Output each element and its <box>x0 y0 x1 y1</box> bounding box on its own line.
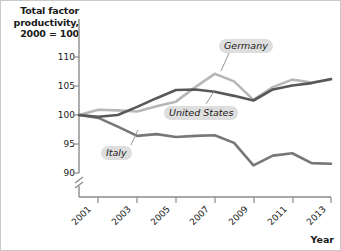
chart-figure: Total factor productivity, 2000 = 100 Ye… <box>0 0 341 251</box>
leader-line-germany <box>221 53 229 71</box>
series-line-germany <box>79 74 331 115</box>
chart-canvas <box>1 1 341 251</box>
series-line-italy <box>79 115 331 165</box>
